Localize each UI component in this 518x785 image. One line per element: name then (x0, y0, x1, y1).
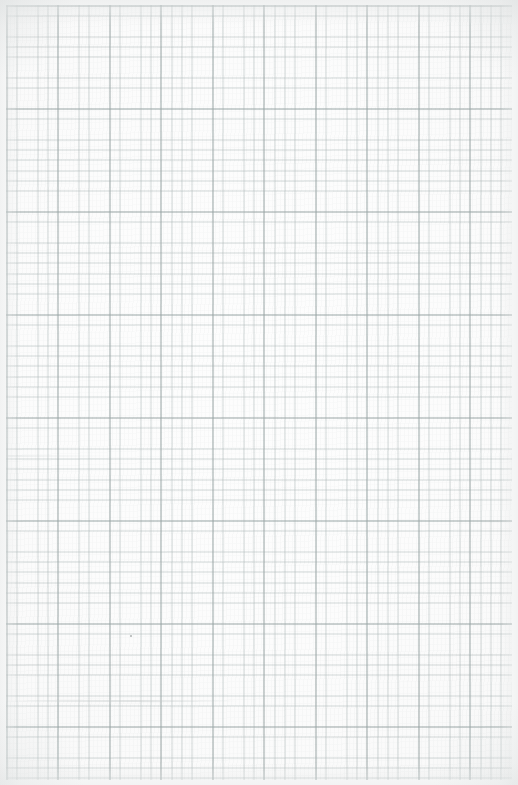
scan-texture-noise (0, 0, 518, 785)
ink-speck (130, 635, 132, 637)
grid-paper-page: Blank sheet of squared graph paper, scan… (0, 0, 518, 785)
